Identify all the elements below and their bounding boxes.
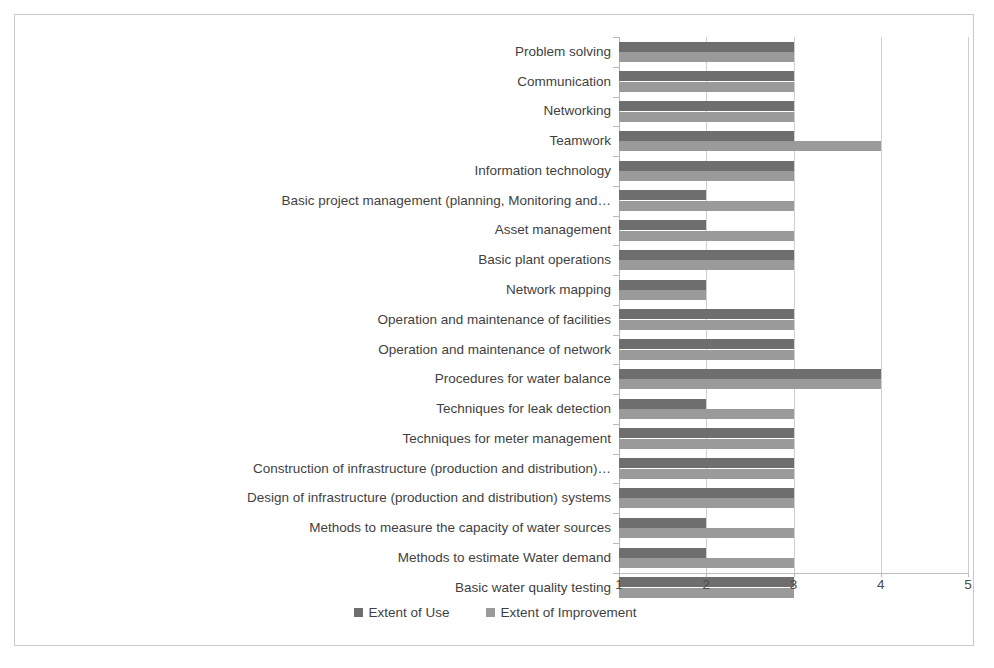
bar-group: [619, 513, 968, 543]
bar-extent-of-improvement[interactable]: [619, 439, 794, 449]
category-label: Basic project management (planning, Moni…: [282, 193, 611, 208]
bar-extent-of-use[interactable]: [619, 220, 706, 230]
bar-extent-of-improvement[interactable]: [619, 350, 794, 360]
bar-extent-of-use[interactable]: [619, 399, 706, 409]
bar-extent-of-improvement[interactable]: [619, 82, 794, 92]
x-axis-tick-label: 1: [615, 577, 623, 592]
bar-group: [619, 245, 968, 275]
bar-row[interactable]: Methods to measure the capacity of water…: [15, 513, 975, 543]
category-label: Operation and maintenance of network: [378, 342, 611, 357]
bar-extent-of-use[interactable]: [619, 71, 794, 81]
bar-row[interactable]: Operation and maintenance of facilities: [15, 305, 975, 335]
bar-row[interactable]: Techniques for meter management: [15, 424, 975, 454]
bar-row[interactable]: Asset management: [15, 216, 975, 246]
category-label: Basic water quality testing: [455, 580, 611, 595]
bar-extent-of-use[interactable]: [619, 280, 706, 290]
bar-extent-of-use[interactable]: [619, 190, 706, 200]
bar-extent-of-use[interactable]: [619, 339, 794, 349]
x-axis-tick-labels: 12345: [619, 577, 968, 599]
category-label: Information technology: [474, 164, 611, 179]
bar-extent-of-use[interactable]: [619, 428, 794, 438]
bar-group: [619, 67, 968, 97]
x-axis-tick-label: 4: [877, 577, 885, 592]
bar-group: [619, 364, 968, 394]
category-label: Network mapping: [506, 283, 611, 298]
bar-row[interactable]: Problem solving: [15, 37, 975, 67]
bar-row[interactable]: Teamwork: [15, 126, 975, 156]
category-label: Teamwork: [549, 134, 611, 149]
bar-extent-of-use[interactable]: [619, 488, 794, 498]
legend-label: Extent of Improvement: [501, 605, 637, 620]
x-axis-tick-label: 5: [964, 577, 972, 592]
bar-extent-of-improvement[interactable]: [619, 409, 794, 419]
bar-extent-of-improvement[interactable]: [619, 528, 794, 538]
bar-row[interactable]: Operation and maintenance of network: [15, 335, 975, 365]
bar-group: [619, 275, 968, 305]
bar-extent-of-improvement[interactable]: [619, 379, 881, 389]
bar-extent-of-use[interactable]: [619, 101, 794, 111]
bar-extent-of-improvement[interactable]: [619, 290, 706, 300]
bar-extent-of-use[interactable]: [619, 369, 881, 379]
category-label: Problem solving: [515, 44, 611, 59]
chart-legend: Extent of UseExtent of Improvement: [15, 605, 975, 620]
bar-extent-of-improvement[interactable]: [619, 52, 794, 62]
legend-item[interactable]: Extent of Use: [354, 605, 450, 620]
bar-group: [619, 156, 968, 186]
category-label: Networking: [543, 104, 611, 119]
bar-group: [619, 335, 968, 365]
bar-group: [619, 97, 968, 127]
legend-swatch-icon: [354, 608, 363, 617]
bar-extent-of-use[interactable]: [619, 131, 794, 141]
bar-extent-of-use[interactable]: [619, 161, 794, 171]
bar-group: [619, 454, 968, 484]
category-label: Communication: [517, 74, 611, 89]
category-label: Asset management: [495, 223, 611, 238]
x-axis-tick-label: 3: [790, 577, 798, 592]
bar-group: [619, 305, 968, 335]
bar-extent-of-improvement[interactable]: [619, 141, 881, 151]
bar-row[interactable]: Networking: [15, 97, 975, 127]
bar-group: [619, 424, 968, 454]
bar-group: [619, 37, 968, 67]
bar-extent-of-use[interactable]: [619, 250, 794, 260]
bar-extent-of-use[interactable]: [619, 548, 706, 558]
legend-item[interactable]: Extent of Improvement: [486, 605, 637, 620]
category-label: Techniques for meter management: [402, 431, 611, 446]
category-label: Basic plant operations: [478, 253, 611, 268]
category-label: Methods to measure the capacity of water…: [309, 521, 611, 536]
bar-group: [619, 186, 968, 216]
category-label: Operation and maintenance of facilities: [378, 312, 611, 327]
bar-extent-of-improvement[interactable]: [619, 171, 794, 181]
category-label: Construction of infrastructure (producti…: [253, 461, 611, 476]
category-label: Methods to estimate Water demand: [398, 550, 611, 565]
bar-extent-of-improvement[interactable]: [619, 469, 794, 479]
bar-row[interactable]: Network mapping: [15, 275, 975, 305]
bar-extent-of-use[interactable]: [619, 518, 706, 528]
bar-row[interactable]: Construction of infrastructure (producti…: [15, 454, 975, 484]
category-label: Procedures for water balance: [435, 372, 611, 387]
bar-row[interactable]: Methods to estimate Water demand: [15, 543, 975, 573]
legend-label: Extent of Use: [369, 605, 450, 620]
bar-extent-of-improvement[interactable]: [619, 112, 794, 122]
bar-row[interactable]: Basic plant operations: [15, 245, 975, 275]
bar-extent-of-improvement[interactable]: [619, 558, 794, 568]
bar-rows-container: Problem solvingCommunicationNetworkingTe…: [15, 37, 975, 573]
legend-swatch-icon: [486, 608, 495, 617]
bar-extent-of-improvement[interactable]: [619, 201, 794, 211]
bar-row[interactable]: Design of infrastructure (production and…: [15, 483, 975, 513]
bar-group: [619, 216, 968, 246]
bar-extent-of-improvement[interactable]: [619, 260, 794, 270]
bar-extent-of-use[interactable]: [619, 309, 794, 319]
bar-row[interactable]: Basic project management (planning, Moni…: [15, 186, 975, 216]
bar-group: [619, 126, 968, 156]
bar-extent-of-improvement[interactable]: [619, 320, 794, 330]
bar-row[interactable]: Procedures for water balance: [15, 364, 975, 394]
bar-extent-of-improvement[interactable]: [619, 498, 794, 508]
bar-extent-of-use[interactable]: [619, 42, 794, 52]
bar-row[interactable]: Communication: [15, 67, 975, 97]
bar-extent-of-improvement[interactable]: [619, 231, 794, 241]
bar-group: [619, 543, 968, 573]
bar-extent-of-use[interactable]: [619, 458, 794, 468]
bar-row[interactable]: Information technology: [15, 156, 975, 186]
bar-row[interactable]: Techniques for leak detection: [15, 394, 975, 424]
